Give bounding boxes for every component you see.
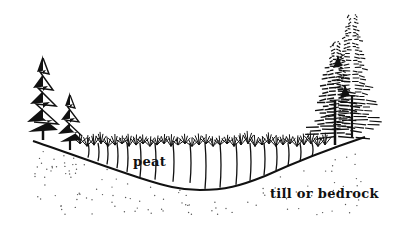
left-conifer-tree-small <box>58 92 82 150</box>
peat-label: peat <box>133 154 166 169</box>
till-stipple <box>34 151 361 215</box>
bog-shrubs <box>73 131 331 146</box>
peat-bog-diagram: peat till or bedrock <box>0 0 413 227</box>
left-conifer-tree-large <box>27 55 58 140</box>
peat-vertical-lines <box>88 143 313 189</box>
right-conifer-tree-front <box>305 42 370 146</box>
till-or-bedrock-label: till or bedrock <box>270 186 379 201</box>
